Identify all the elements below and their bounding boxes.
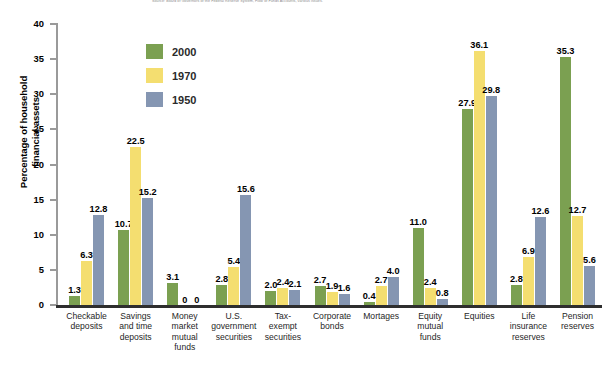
bar-value-label: 3.1 — [166, 272, 179, 282]
bar-value-label: 22.5 — [127, 136, 145, 146]
bar-fill — [535, 217, 546, 306]
bar-value-label: 2.8 — [215, 274, 228, 284]
legend-swatch — [146, 92, 163, 107]
bar[interactable]: 2.0 — [265, 291, 276, 305]
bar-fill — [376, 286, 387, 305]
y-axis-tick — [50, 234, 58, 236]
bar[interactable]: 11.0 — [413, 228, 424, 305]
legend-label: 2000 — [172, 46, 196, 58]
bar-value-label: 5.6 — [583, 255, 596, 265]
y-axis-tick — [50, 58, 58, 60]
bar-fill — [216, 285, 227, 305]
y-axis-tick — [50, 269, 58, 271]
legend-item[interactable]: 1970 — [146, 68, 196, 83]
bar-value-label: 12.6 — [531, 206, 549, 216]
bar[interactable]: 12.7 — [572, 216, 583, 305]
bar[interactable]: 1.9 — [327, 292, 338, 305]
category-label: Moneymarketmutualfunds — [160, 311, 209, 366]
bar-group: 2.02.42.1 — [258, 24, 307, 305]
y-axis-tick — [50, 164, 58, 166]
bar-value-label: 2.8 — [510, 274, 523, 284]
bar[interactable]: 2.7 — [315, 286, 326, 305]
bar[interactable]: 12.8 — [93, 215, 104, 305]
bar-value-label: 0 — [182, 295, 187, 305]
y-axis-tick-label: 25 — [20, 123, 44, 134]
bar[interactable]: 1.6 — [339, 294, 350, 305]
bar[interactable]: 22.5 — [130, 147, 141, 305]
bar-value-label: 6.9 — [522, 246, 535, 256]
legend: 200019701950 — [146, 44, 196, 116]
bar[interactable]: 35.3 — [560, 57, 571, 305]
bar-value-label: 6.3 — [80, 250, 93, 260]
bar-value-label: 0.4 — [363, 291, 376, 301]
y-axis-tick-label: 40 — [20, 18, 44, 29]
category-label: Equities — [455, 311, 504, 366]
bar-value-label: 11.0 — [410, 217, 427, 227]
legend-swatch — [146, 44, 163, 59]
y-axis-tick — [50, 128, 58, 130]
y-axis-tick-label: 15 — [20, 194, 44, 205]
category-label: Checkabledeposits — [62, 311, 111, 366]
bar[interactable]: 2.1 — [289, 290, 300, 305]
bar[interactable]: 6.3 — [81, 261, 92, 305]
bar-value-label: 2.4 — [277, 277, 290, 287]
category-label: U.S.governmentsecurities — [209, 311, 258, 366]
bar[interactable]: 4.0 — [388, 277, 399, 305]
bar-fill — [413, 228, 424, 305]
category-label: Equitymutualfunds — [406, 311, 455, 366]
y-axis-tick — [50, 199, 58, 201]
y-axis-tick — [50, 23, 58, 25]
bar-fill — [560, 57, 571, 305]
bar-group: 35.312.75.6 — [553, 24, 602, 305]
bar-fill — [277, 288, 288, 305]
bar[interactable]: 12.6 — [535, 217, 546, 306]
bar-value-label: 12.7 — [569, 205, 587, 215]
y-axis-tick-label: 5 — [20, 264, 44, 275]
bar-fill — [289, 290, 300, 305]
bar-value-label: 15.6 — [237, 184, 255, 194]
bar[interactable]: 2.4 — [277, 288, 288, 305]
bar[interactable]: 15.6 — [240, 195, 251, 305]
legend-swatch — [146, 68, 163, 83]
bar-fill — [327, 292, 338, 305]
bar-fill — [584, 266, 595, 305]
bar[interactable]: 2.4 — [425, 288, 436, 305]
bar-fill — [69, 296, 80, 305]
bar-fill — [315, 286, 326, 305]
y-axis-tick-label: 20 — [20, 159, 44, 170]
bar-fill — [240, 195, 251, 305]
legend-item[interactable]: 2000 — [146, 44, 196, 59]
bar-value-label: 2.7 — [314, 275, 327, 285]
bar[interactable]: 5.4 — [228, 267, 239, 305]
bar[interactable]: 27.9 — [462, 109, 473, 305]
bar-value-label: 36.1 — [470, 40, 488, 50]
bar-fill — [339, 294, 350, 305]
bar[interactable]: 15.2 — [142, 198, 153, 305]
bar[interactable]: 2.7 — [376, 286, 387, 305]
bar[interactable]: 10.7 — [118, 230, 129, 305]
y-axis-tick — [50, 93, 58, 95]
bar[interactable]: 5.6 — [584, 266, 595, 305]
bar-value-label: 2.0 — [265, 280, 278, 290]
bar-group: 11.02.40.8 — [406, 24, 455, 305]
bar[interactable]: 6.9 — [523, 257, 534, 305]
legend-label: 1970 — [172, 70, 196, 82]
y-axis-tick-label: 10 — [20, 229, 44, 240]
bar-groups: 1.36.312.810.722.515.23.1002.85.415.62.0… — [62, 24, 602, 305]
bar-group: 2.71.91.6 — [307, 24, 356, 305]
bar-value-label: 1.9 — [326, 281, 339, 291]
bar[interactable]: 29.8 — [486, 96, 497, 305]
bar-group: 2.86.912.6 — [504, 24, 553, 305]
bar[interactable]: 3.1 — [167, 283, 178, 305]
legend-item[interactable]: 1950 — [146, 92, 196, 107]
bar-value-label: 2.7 — [375, 275, 388, 285]
bar[interactable]: 2.8 — [216, 285, 227, 305]
x-axis-line — [56, 305, 602, 308]
bar-value-label: 0.8 — [436, 288, 449, 298]
bar[interactable]: 1.3 — [69, 296, 80, 305]
bar-fill — [93, 215, 104, 305]
bar-group: 2.85.415.6 — [209, 24, 258, 305]
bar[interactable]: 2.8 — [511, 285, 522, 305]
bar-value-label: 1.3 — [68, 285, 81, 295]
category-label: Lifeinsurancereserves — [504, 311, 553, 366]
